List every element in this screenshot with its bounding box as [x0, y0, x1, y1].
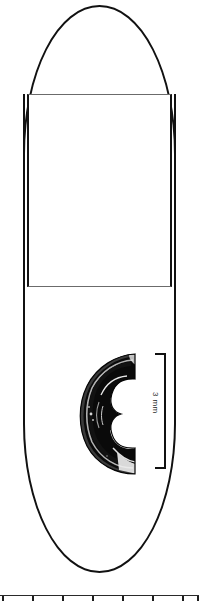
ruler-tick [32, 596, 34, 601]
capsule-outline [23, 5, 176, 573]
ruler-tick [152, 596, 154, 601]
scale-bar-label: 3 mm [151, 392, 160, 414]
ruler-tick [62, 596, 64, 601]
scale-bar-cap-bottom [155, 467, 166, 469]
ruler-tick [182, 596, 184, 601]
specimen-shape [77, 352, 139, 476]
ruler-tick [2, 596, 4, 601]
figure-root: 3 mm [0, 0, 199, 601]
specimen-cross-section [77, 352, 139, 476]
inner-rectangle-region [27, 94, 172, 287]
ruler-tick [197, 596, 199, 601]
bottom-ruler [0, 595, 199, 601]
ruler-tick [92, 596, 94, 601]
ruler-tick [122, 596, 124, 601]
capsule-body-edge-right [174, 94, 176, 290]
scale-bar-spine [164, 353, 166, 469]
ruler-baseline [0, 595, 199, 596]
capsule-body-edge-left [23, 94, 25, 290]
